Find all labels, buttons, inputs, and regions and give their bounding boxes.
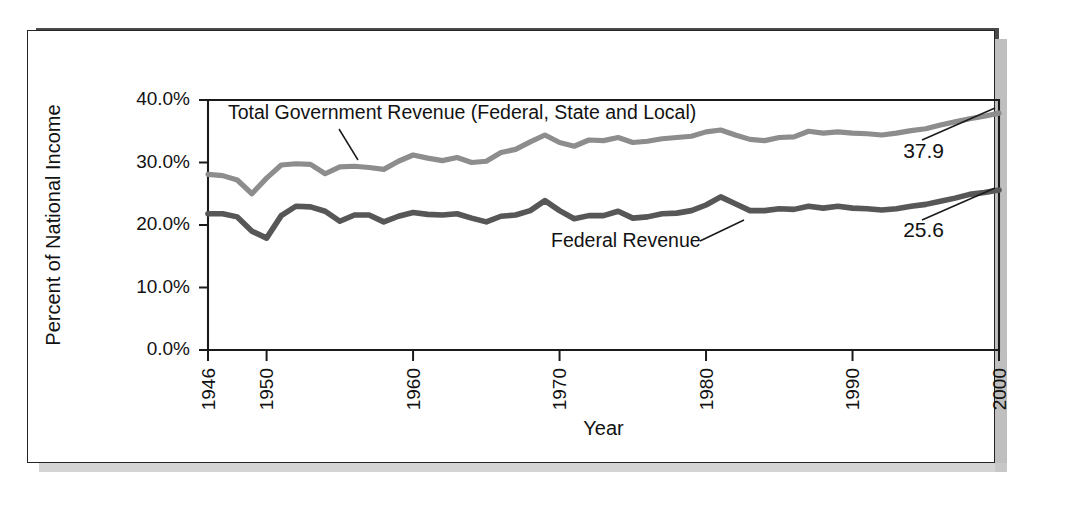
x-axis-tick-label: 1960: [403, 368, 424, 410]
leader-line-end-total: [922, 108, 995, 140]
series-annotation-federal-revenue: Federal Revenue: [551, 229, 701, 251]
x-axis-tick-label: 1946: [198, 368, 219, 410]
y-axis-title: Percent of National Income: [42, 104, 64, 345]
end-value-label-federal: 25.6: [903, 218, 944, 241]
chart-axes: 0.0%10.0%20.0%30.0%40.0%1946195019601970…: [42, 88, 1010, 439]
leader-line-federal: [700, 220, 744, 241]
x-axis-tick-label: 1970: [549, 368, 570, 410]
y-axis-tick-label: 0.0%: [147, 338, 190, 359]
series-line-total-government-revenue: [208, 113, 999, 194]
x-axis-tick-label: 1950: [256, 368, 277, 410]
chart-annotations: Total Government Revenue (Federal, State…: [228, 101, 995, 251]
end-value-label-total: 37.9: [903, 139, 944, 162]
line-chart: 0.0%10.0%20.0%30.0%40.0%1946195019601970…: [0, 0, 1092, 509]
x-axis-tick-label: 1990: [842, 368, 863, 410]
x-axis-title: Year: [583, 417, 624, 439]
y-axis-tick-label: 20.0%: [136, 213, 190, 234]
y-axis-tick-label: 30.0%: [136, 151, 190, 172]
x-axis-tick-label: 1980: [696, 368, 717, 410]
leader-line-total: [339, 129, 358, 160]
x-axis-tick-label: 2000: [989, 368, 1010, 410]
chart-container: 0.0%10.0%20.0%30.0%40.0%1946195019601970…: [0, 0, 1092, 509]
plot-frame: [208, 100, 999, 350]
y-axis-tick-label: 10.0%: [136, 276, 190, 297]
y-axis-tick-label: 40.0%: [136, 88, 190, 109]
series-annotation-total-government-revenue: Total Government Revenue (Federal, State…: [228, 101, 696, 123]
chart-series: [208, 113, 999, 238]
